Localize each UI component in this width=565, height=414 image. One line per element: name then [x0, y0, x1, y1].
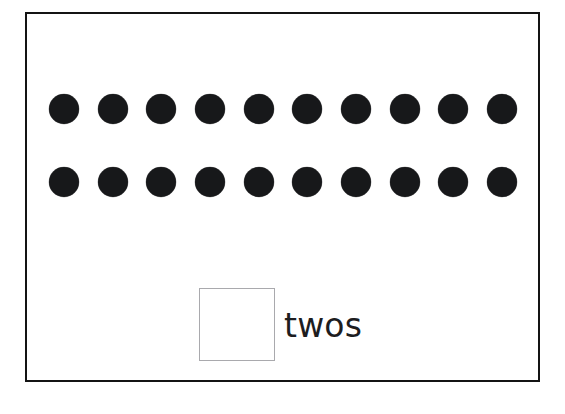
answer-input-box[interactable] [199, 288, 275, 361]
counter-dot [341, 94, 371, 124]
counter-dot [146, 167, 176, 197]
counter-row-2 [27, 167, 538, 197]
counter-dot [487, 94, 517, 124]
counter-dot [292, 167, 322, 197]
counter-dot [195, 94, 225, 124]
worksheet-frame: twos [25, 12, 540, 382]
counter-dot [390, 94, 420, 124]
counter-dot [49, 94, 79, 124]
counter-dot [292, 94, 322, 124]
counter-dot [438, 94, 468, 124]
counter-dot [146, 94, 176, 124]
answer-label: twos [284, 309, 362, 342]
counter-dot [98, 167, 128, 197]
counter-dot [244, 94, 274, 124]
counter-dot [438, 167, 468, 197]
counter-dot [487, 167, 517, 197]
counter-dot [341, 167, 371, 197]
answer-area: twos [199, 288, 362, 361]
counter-row-1 [27, 94, 538, 124]
counter-dot [49, 167, 79, 197]
counter-dot [390, 167, 420, 197]
counter-dot [244, 167, 274, 197]
counter-dot [98, 94, 128, 124]
counter-dot [195, 167, 225, 197]
